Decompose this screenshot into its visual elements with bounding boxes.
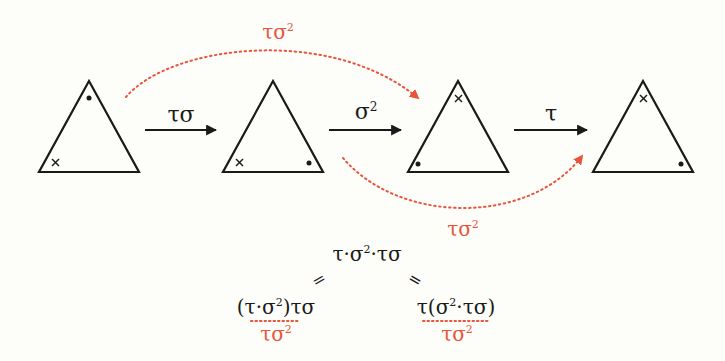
cross-mark	[52, 159, 59, 166]
equation-left: (τ·σ2)τσ	[237, 297, 315, 317]
triangle-4	[593, 81, 693, 172]
label-sup: 2	[285, 323, 292, 336]
cross-mark	[455, 95, 462, 102]
label-sup: 2	[472, 218, 479, 231]
eq-part: (τ·σ	[237, 295, 276, 319]
diagram-stage: τσ σ2 τ τσ2 τσ2 τ·σ2·τσ = = (τ·σ2)τσ τ(σ…	[0, 0, 725, 361]
dot-mark	[416, 162, 421, 167]
eq-sup: 2	[276, 296, 283, 309]
eq-part: ·τσ)	[456, 295, 495, 319]
eq-sup: 2	[449, 296, 456, 309]
label-base: τσ	[447, 217, 472, 241]
triangle-1	[39, 81, 139, 172]
dot-mark	[87, 96, 92, 101]
curved-label-bottom: τσ2	[447, 219, 479, 239]
equation-top: τ·σ2·τσ	[332, 244, 401, 264]
label-base: τ	[545, 101, 557, 126]
label-sup: 2	[287, 21, 294, 34]
arrow-label-sigma-squared: σ2	[355, 101, 378, 123]
arrow-label-tau-sigma: τσ	[167, 104, 194, 126]
label-base: τσ	[167, 102, 194, 127]
arrow-label-tau: τ	[545, 103, 557, 125]
cross-mark	[640, 95, 647, 102]
eq-part: τ·σ	[332, 242, 363, 266]
label-base: τσ	[441, 322, 466, 346]
underbrace-label-right: τσ2	[441, 324, 473, 344]
cross-mark	[236, 159, 243, 166]
label-base: τσ	[260, 322, 285, 346]
equation-right: τ(σ2·τσ)	[417, 297, 495, 317]
diagram-canvas	[0, 0, 725, 361]
label-sup: 2	[466, 323, 473, 336]
dot-mark	[307, 161, 312, 166]
label-base: σ	[355, 99, 370, 124]
curved-arrow-bottom	[343, 156, 582, 208]
eq-part: )τσ	[283, 295, 316, 319]
triangle-2	[223, 81, 323, 172]
dot-mark	[679, 162, 684, 167]
label-sup: 2	[370, 100, 378, 114]
eq-part: ·τσ	[371, 242, 402, 266]
triangle-3	[408, 81, 508, 172]
label-base: τσ	[262, 20, 287, 44]
curved-label-top: τσ2	[262, 22, 294, 42]
curved-arrow-top	[126, 50, 418, 98]
underbrace-label-left: τσ2	[260, 324, 292, 344]
eq-part: τ(σ	[417, 295, 450, 319]
